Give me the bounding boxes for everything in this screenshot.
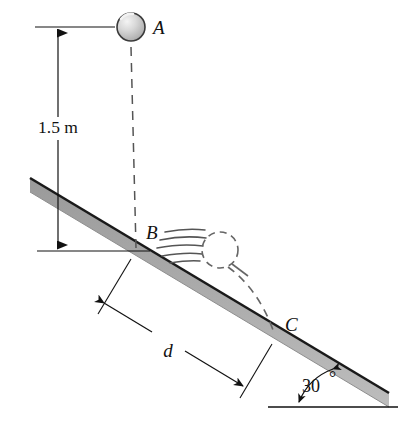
- height-label: 1.5 m: [38, 117, 78, 137]
- label-point-b: B: [146, 222, 158, 243]
- motion-line-5: [170, 261, 200, 263]
- degree-symbol: °: [329, 368, 336, 388]
- motion-line-3: [157, 245, 203, 248]
- distance-extension-line-c: [240, 344, 272, 398]
- label-point-c: C: [285, 314, 298, 335]
- trajectory-leader: [232, 264, 248, 276]
- drop-path-dashed: [131, 47, 136, 248]
- distance-dimension-left-segment: [104, 303, 152, 332]
- label-point-a: A: [151, 17, 165, 38]
- distance-extension-line-b: [98, 259, 131, 314]
- physics-diagram: 1.5 m A B C d 30 °: [0, 0, 419, 432]
- angle-marker: 30 °: [299, 368, 336, 402]
- ball-in-flight-dashed: [202, 232, 238, 268]
- distance-label: d: [163, 340, 173, 361]
- incline-top-edge: [30, 178, 389, 393]
- angle-value-label: 30: [302, 376, 320, 396]
- distance-dimension-right-segment: [185, 351, 243, 386]
- motion-line-2: [160, 237, 206, 240]
- ball-at-a: [117, 13, 145, 41]
- motion-line-4: [162, 253, 202, 256]
- motion-line-1: [165, 229, 205, 232]
